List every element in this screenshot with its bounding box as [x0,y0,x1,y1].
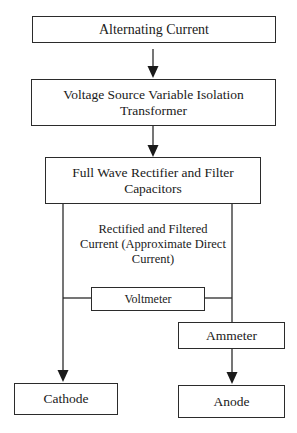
ammeter-label: Ammeter [206,328,257,344]
connector-lines [0,0,297,433]
transformer-box: Voltage Source Variable Isolation Transf… [31,79,276,126]
arrowhead-icon [227,372,238,384]
arrowhead-icon [148,66,159,78]
anode-label: Anode [214,394,250,410]
rectifier-box: Full Wave Rectifier and Filter Capacitor… [45,157,261,204]
voltmeter-label: Voltmeter [124,291,171,307]
anode-box: Anode [178,385,285,418]
transformer-label: Voltage Source Variable Isolation Transf… [38,87,269,119]
cathode-label: Cathode [44,391,89,407]
arrowhead-icon [148,145,159,157]
voltmeter-box: Voltmeter [91,287,205,311]
arrowhead-icon [58,370,69,382]
ammeter-box: Ammeter [178,322,285,349]
dc-current-annotation: Rectified and Filtered Current (Approxim… [78,222,228,267]
alternating-current-label: Alternating Current [99,22,209,38]
cathode-box: Cathode [14,383,118,415]
alternating-current-box: Alternating Current [32,16,276,43]
rectifier-label: Full Wave Rectifier and Filter Capacitor… [52,165,254,197]
